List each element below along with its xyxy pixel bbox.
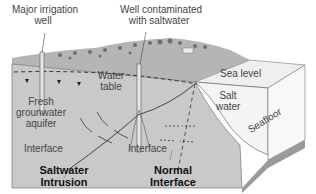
house	[183, 48, 193, 53]
irrigation-well-label: Major irrigation well	[12, 4, 74, 26]
salt-water-label: Salt water	[216, 90, 240, 112]
saltwater-intrusion-diagram: Major irrigation well Well contaminated …	[0, 0, 316, 194]
aquifer-label: Fresh grounwater aquifer	[12, 96, 70, 129]
interface-label-right: Interface	[128, 143, 167, 154]
water-table-label: Water table	[94, 70, 128, 92]
contaminated-well-label: Well contaminated with saltwater	[120, 4, 198, 26]
contaminated-well	[137, 64, 141, 152]
saltwater-intrusion-caption: Saltwater Intrusion	[36, 164, 92, 188]
sea-level-label: Sea level	[220, 68, 261, 79]
normal-interface-caption: Normal Interface	[148, 164, 198, 188]
interface-label-left: Interface	[24, 143, 63, 154]
